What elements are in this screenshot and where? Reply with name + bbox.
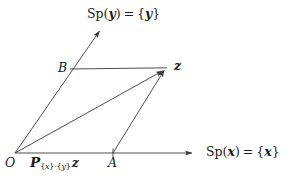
projection-label: P{x}·{y}z [30, 156, 79, 171]
span-y-vector: y [108, 6, 115, 21]
span-x-vector: x [227, 144, 234, 159]
point-label-origin: O [5, 157, 15, 170]
span-y-equals: = [124, 6, 134, 21]
projection-subscript: {x}·{y} [40, 162, 71, 171]
span-x-set-close: } [272, 144, 280, 159]
b-to-z-edge [70, 68, 167, 69]
point-label-b: B [58, 62, 67, 75]
span-y-prefix: Sp [87, 6, 104, 21]
span-y-close-paren: ) [116, 6, 121, 21]
span-x-label: Sp(x)={x} [206, 146, 280, 159]
projection-diagram: Sp(y)={y} Sp(x)={x} B z O A P{x}·{y}z [0, 0, 301, 179]
span-x-close-paren: ) [235, 144, 240, 159]
span-x-equals: = [243, 144, 253, 159]
projection-symbol: P [30, 154, 40, 170]
span-y-set-open: { [137, 6, 145, 21]
z-diagonal [15, 71, 163, 153]
point-label-z: z [174, 60, 181, 73]
span-y-set-close: } [152, 6, 160, 21]
projection-operand: z [72, 155, 79, 170]
span-x-prefix: Sp [206, 144, 223, 159]
span-y-label: Sp(y)={y} [87, 8, 160, 21]
point-label-a: A [108, 157, 117, 170]
sub-close-brace-2: } [66, 162, 71, 171]
span-x-set-vector: x [264, 144, 271, 159]
y-axis-ray [15, 31, 100, 153]
a-to-z-edge [113, 70, 164, 153]
